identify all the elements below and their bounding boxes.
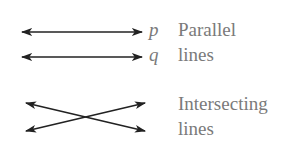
- line-q-label: q: [149, 45, 159, 64]
- parallel-caption-line2: lines: [178, 45, 214, 64]
- lines-diagram: p q Parallel lines Intersecting lines: [0, 0, 304, 165]
- intersecting-caption-line1: Intersecting: [178, 94, 268, 113]
- intersecting-caption-line2: lines: [178, 119, 214, 138]
- line-p-label: p: [149, 20, 159, 39]
- parallel-caption-line1: Parallel: [178, 20, 236, 39]
